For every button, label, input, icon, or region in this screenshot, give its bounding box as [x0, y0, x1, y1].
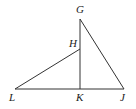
- point-label-J: J: [120, 91, 126, 103]
- point-label-L: L: [8, 91, 15, 103]
- point-label-K: K: [75, 91, 84, 103]
- segment-LH: [15, 49, 80, 89]
- segment-GJ: [80, 19, 124, 89]
- point-label-H: H: [68, 37, 78, 49]
- geometry-diagram: G H K L J: [0, 0, 136, 109]
- point-label-G: G: [76, 3, 84, 15]
